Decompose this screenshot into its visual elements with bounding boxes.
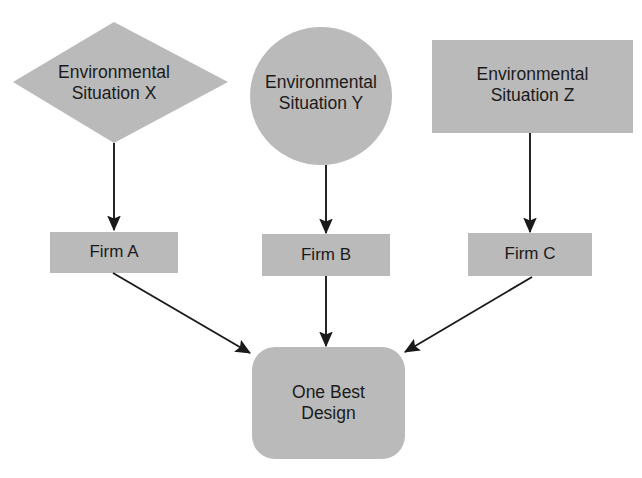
diagram-graphics: [0, 0, 642, 478]
diagram-canvas: Environmental Situation X Environmental …: [0, 0, 642, 478]
node-environmental-situation-x: [13, 22, 228, 143]
edge-firm-a-to-one-best-design: [113, 273, 250, 353]
edge-firm-c-to-one-best-design: [405, 277, 532, 352]
node-firm-b: [262, 234, 390, 276]
node-one-best-design: [252, 347, 405, 459]
node-firm-a: [50, 232, 178, 273]
node-firm-c: [468, 233, 592, 276]
node-environmental-situation-y: [250, 27, 392, 165]
node-environmental-situation-z: [432, 40, 633, 133]
